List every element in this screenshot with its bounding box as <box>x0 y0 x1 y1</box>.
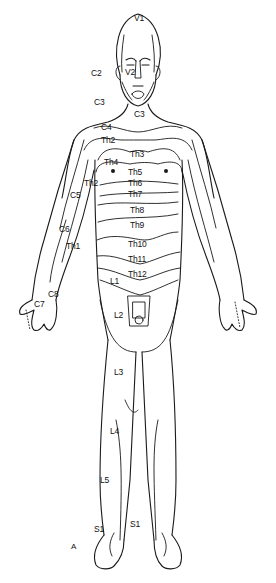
right-arm <box>182 140 256 331</box>
body-outline-drawing <box>0 0 276 583</box>
label-l5: L5 <box>100 476 109 485</box>
label-th12: Th12 <box>128 270 147 279</box>
label-th9: Th9 <box>130 221 144 230</box>
head <box>116 14 160 106</box>
panel-label: A <box>71 543 76 551</box>
label-l4: L4 <box>110 427 119 436</box>
label-th3: Th3 <box>130 150 144 159</box>
label-c6: C6 <box>59 225 69 234</box>
label-th2-chest: Th2 <box>101 136 115 145</box>
label-c7: C7 <box>34 300 44 309</box>
label-l2: L2 <box>114 311 123 320</box>
label-th8: Th8 <box>130 206 144 215</box>
label-c5: C5 <box>70 191 80 200</box>
label-th7: Th7 <box>128 190 142 199</box>
label-th4: Th4 <box>104 158 118 167</box>
label-v2: V2 <box>125 68 135 77</box>
label-th10: Th10 <box>128 240 147 249</box>
label-th5: Th5 <box>128 168 142 177</box>
label-c4: C4 <box>101 123 111 132</box>
label-s1-right: S1 <box>130 520 140 529</box>
label-v1: V1 <box>134 14 144 23</box>
label-th6: Th6 <box>128 179 142 188</box>
label-c2: C2 <box>91 69 101 78</box>
label-l1: L1 <box>110 277 119 286</box>
label-c3-neck: C3 <box>134 110 144 119</box>
legs <box>94 340 181 569</box>
label-c3-face: C3 <box>94 98 104 107</box>
label-l3: L3 <box>114 368 123 377</box>
label-th1: Th1 <box>66 242 80 251</box>
label-th2-arm: Th2 <box>84 179 98 188</box>
label-c8: C8 <box>48 290 58 299</box>
label-th11: Th11 <box>128 255 146 264</box>
label-s1-left: S1 <box>94 525 104 534</box>
left-arm <box>20 140 94 331</box>
